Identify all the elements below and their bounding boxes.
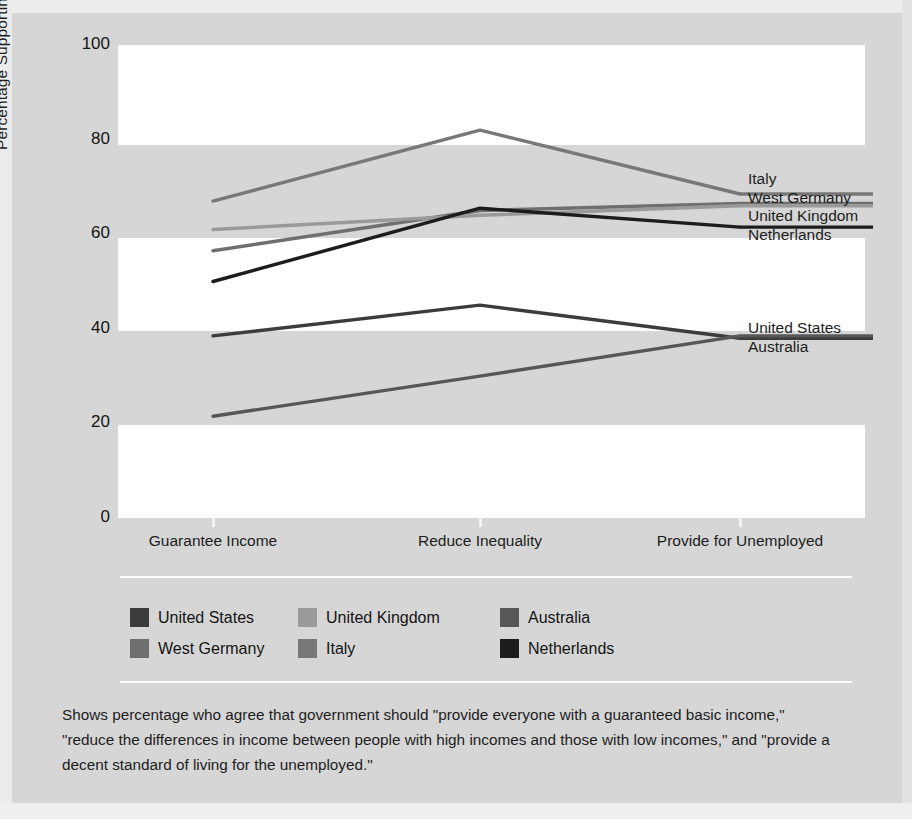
legend-label: West Germany xyxy=(158,640,264,658)
legend-swatch-icon xyxy=(130,608,149,627)
plot-area xyxy=(118,45,865,518)
x-axis-tick-marks xyxy=(118,518,865,528)
legend-swatch-icon xyxy=(298,639,317,658)
separator-above-caption xyxy=(120,681,852,683)
x-tick-label-0: Guarantee Income xyxy=(149,532,277,550)
y-axis-tick-labels: 100806040200 xyxy=(36,45,110,518)
series-line-united-states xyxy=(213,305,740,338)
y-tick-20: 20 xyxy=(46,412,110,432)
legend-item-united-kingdom[interactable]: United Kingdom xyxy=(298,608,500,627)
legend-item-italy[interactable]: Italy xyxy=(298,639,500,658)
inline-label-italy: Italy xyxy=(748,170,908,189)
x-tick-mark-0 xyxy=(212,518,215,527)
inline-label-netherlands: Netherlands xyxy=(748,226,908,245)
paper-edge-top xyxy=(0,0,912,13)
y-tick-60: 60 xyxy=(46,223,110,243)
legend-label: United Kingdom xyxy=(326,609,440,627)
series-lines xyxy=(118,45,865,518)
legend-swatch-icon xyxy=(130,639,149,658)
legend-label: Italy xyxy=(326,640,355,658)
series-line-australia xyxy=(213,336,740,416)
x-tick-label-2: Provide for Unemployed xyxy=(657,532,823,550)
series-labels-lower: United StatesAustralia xyxy=(748,319,908,356)
legend-label: Australia xyxy=(528,609,590,627)
chart-legend: United StatesUnited KingdomAustraliaWest… xyxy=(130,602,730,664)
x-tick-label-1: Reduce Inequality xyxy=(418,532,542,550)
legend-item-australia[interactable]: Australia xyxy=(500,608,730,627)
legend-label: Netherlands xyxy=(528,640,614,658)
y-tick-0: 0 xyxy=(46,507,110,527)
legend-item-west-germany[interactable]: West Germany xyxy=(130,639,298,658)
separator-above-legend xyxy=(120,576,852,578)
series-line-netherlands xyxy=(213,208,740,281)
legend-swatch-icon xyxy=(298,608,317,627)
legend-swatch-icon xyxy=(500,639,519,658)
y-tick-40: 40 xyxy=(46,318,110,338)
series-labels-upper: ItalyWest GermanyUnited KingdomNetherlan… xyxy=(748,170,908,244)
legend-label: United States xyxy=(158,609,254,627)
y-tick-100: 100 xyxy=(46,34,110,54)
legend-item-netherlands[interactable]: Netherlands xyxy=(500,639,730,658)
inline-label-australia: Australia xyxy=(748,338,908,357)
inline-label-united-states: United States xyxy=(748,319,908,338)
y-axis-title: Percentage Supporting Government Involve… xyxy=(0,0,11,150)
y-tick-80: 80 xyxy=(46,129,110,149)
legend-swatch-icon xyxy=(500,608,519,627)
figure-caption: Shows percentage who agree that governme… xyxy=(62,702,837,777)
figure-container: Percentage Supporting Government Involve… xyxy=(0,0,912,819)
paper-edge-right xyxy=(902,0,912,819)
paper-edge-bottom xyxy=(0,803,912,819)
series-line-italy xyxy=(213,130,740,201)
x-tick-mark-2 xyxy=(739,518,742,527)
inline-label-united-kingdom: United Kingdom xyxy=(748,207,908,226)
x-tick-mark-1 xyxy=(479,518,482,527)
legend-item-united-states[interactable]: United States xyxy=(130,608,298,627)
x-axis-tick-labels: Guarantee IncomeReduce InequalityProvide… xyxy=(0,532,912,556)
inline-label-west-germany: West Germany xyxy=(748,189,908,208)
